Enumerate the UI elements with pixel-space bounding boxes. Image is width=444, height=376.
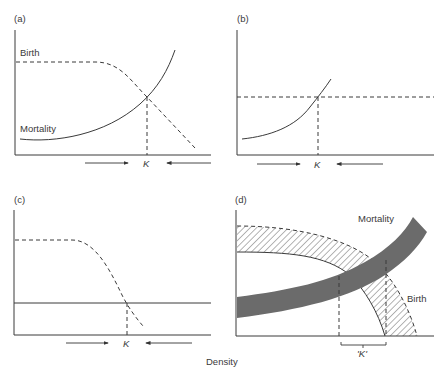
birth-label-a: Birth xyxy=(20,48,40,58)
panel-b xyxy=(237,30,434,164)
k-label-b: K xyxy=(314,160,320,170)
k-label-d: 'K' xyxy=(357,349,367,359)
mortality-curve-b xyxy=(242,79,331,139)
x-axis-label: Density xyxy=(206,357,238,367)
birth-curve-a xyxy=(16,62,195,148)
panel-label-a: (a) xyxy=(14,14,26,24)
k-label-c: K xyxy=(123,339,129,349)
k-label-a: K xyxy=(143,159,149,169)
panel-label-d: (d) xyxy=(235,195,247,205)
panel-a xyxy=(15,30,211,163)
panel-label-b: (b) xyxy=(237,14,249,24)
birth-curve-c xyxy=(15,240,143,326)
axes-b xyxy=(237,30,434,155)
mortality-label-d: Mortality xyxy=(358,214,394,224)
mortality-label-a: Mortality xyxy=(20,124,56,134)
birth-label-d: Birth xyxy=(407,294,427,304)
panel-label-c: (c) xyxy=(14,195,25,205)
axes-a xyxy=(15,30,211,155)
panel-d xyxy=(236,210,434,348)
axes-c xyxy=(14,210,211,335)
density-dependence-figure xyxy=(0,0,444,376)
panel-c xyxy=(14,210,211,343)
